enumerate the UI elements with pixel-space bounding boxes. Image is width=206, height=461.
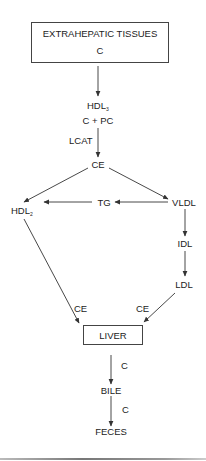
hdl2-label: HDL2 [11, 205, 33, 217]
arrow-ce-to-vldl [109, 168, 168, 199]
ce-left-label: CE [74, 303, 87, 314]
extrahepatic-tissues-label: EXTRAHEPATIC TISSUES [43, 28, 158, 39]
vldl-label: VLDL [172, 197, 196, 208]
bile-label: BILE [101, 385, 122, 396]
tg-label: TG [97, 197, 110, 208]
bottom-divider [0, 458, 206, 460]
cholesterol-label: C [97, 45, 104, 56]
idl-label: IDL [178, 238, 193, 249]
c-upper-label: C [121, 360, 128, 371]
ldl-label: LDL [175, 279, 192, 290]
ce-right-label: CE [136, 303, 149, 314]
reverse-cholesterol-transport-diagram: EXTRAHEPATIC TISSUES C HDL3 C + PC LCAT … [0, 0, 206, 461]
liver-box: LIVER [84, 326, 143, 345]
arrow-hdl2-to-liver [24, 219, 79, 323]
lcat-label: LCAT [69, 135, 93, 146]
c-plus-pc-label: C + PC [83, 115, 114, 126]
extrahepatic-tissues-box: EXTRAHEPATIC TISSUES C [32, 23, 169, 63]
c-lower-label: C [122, 404, 129, 415]
liver-label: LIVER [99, 330, 127, 341]
hdl3-label: HDL3 [87, 100, 109, 112]
ce-top-label: CE [91, 159, 104, 170]
arrow-ce-to-hdl2 [24, 168, 88, 202]
feces-label: FECES [95, 426, 127, 437]
